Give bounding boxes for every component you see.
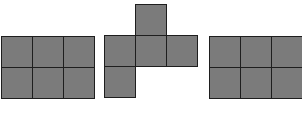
square-cell [63, 67, 95, 99]
square-cell [135, 4, 167, 36]
square-cell [104, 66, 136, 98]
square-cell [271, 36, 302, 68]
square-cell [240, 36, 272, 68]
square-cell [32, 36, 64, 68]
square-cell [1, 36, 33, 68]
square-cell [209, 67, 241, 99]
square-cell [209, 36, 241, 68]
square-cell [271, 67, 302, 99]
square-cell [166, 35, 198, 67]
square-cell [240, 67, 272, 99]
square-cell [1, 67, 33, 99]
square-cell [32, 67, 64, 99]
square-cell [135, 35, 167, 67]
square-cell [63, 36, 95, 68]
square-cell [104, 35, 136, 67]
